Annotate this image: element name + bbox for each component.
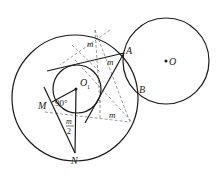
label-B: B xyxy=(139,84,145,95)
label-A: A xyxy=(125,45,133,56)
geometry-diagram: A B O O 1 M N m m m 90° m 2 xyxy=(0,0,221,176)
label-O: O xyxy=(169,56,176,67)
point-O-dot xyxy=(165,60,168,63)
line-O1N xyxy=(75,89,76,153)
label-N: N xyxy=(70,155,79,166)
angle-right-m: m xyxy=(109,110,116,120)
angle-half-num: m xyxy=(66,117,72,126)
label-M: M xyxy=(37,100,47,111)
angle-right-angle: 90° xyxy=(55,98,68,108)
point-O1-dot xyxy=(75,88,78,91)
angle-half-den: 2 xyxy=(67,127,71,136)
label-O1-sub: 1 xyxy=(87,84,90,90)
angle-top-m: m xyxy=(87,39,94,49)
angle-A-m: m xyxy=(107,57,114,67)
